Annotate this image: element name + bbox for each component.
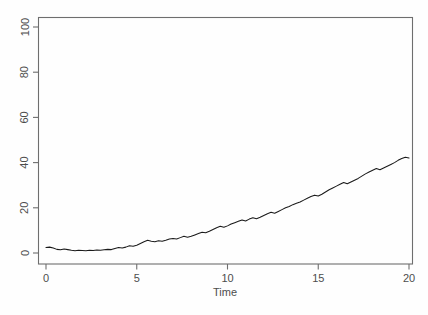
r-plot-canvas: 020406080100 05101520 Time: [0, 0, 428, 315]
x-tick-label: 10: [221, 272, 233, 284]
y-tick-label: 0: [19, 250, 31, 256]
y-axis-tick-labels: 020406080100: [19, 18, 31, 256]
x-axis-ticks: [46, 264, 409, 270]
x-axis-tick-labels: 05101520: [43, 272, 415, 284]
x-tick-label: 15: [312, 272, 324, 284]
x-tick-label: 0: [43, 272, 49, 284]
x-tick-label: 20: [403, 272, 415, 284]
y-tick-label: 60: [19, 111, 31, 123]
y-tick-label: 80: [19, 66, 31, 78]
y-tick-label: 40: [19, 156, 31, 168]
chart-svg: 020406080100 05101520 Time: [0, 0, 428, 315]
y-tick-label: 100: [19, 18, 31, 36]
y-tick-label: 20: [19, 202, 31, 214]
x-tick-label: 5: [134, 272, 140, 284]
y-axis-ticks: [33, 27, 39, 253]
x-axis-title: Time: [213, 286, 237, 298]
series-line: [46, 157, 409, 251]
data-series-group: [46, 157, 409, 251]
